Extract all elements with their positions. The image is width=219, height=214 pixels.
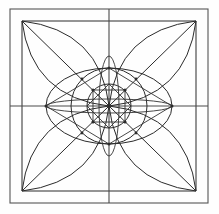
node-diag-bl-dot	[91, 120, 94, 123]
node-ring-tr-dot	[135, 78, 138, 81]
node-left-dot	[45, 105, 48, 108]
node-ring-bl-dot	[81, 132, 84, 135]
node-center-dot	[107, 104, 111, 108]
node-ring-tl-dot	[81, 78, 84, 81]
node-up-dot	[108, 67, 111, 70]
node-down-dot	[108, 143, 111, 146]
node-diag-tl-dot	[91, 88, 94, 91]
rosette-figure	[0, 0, 219, 214]
node-diag-tr-dot	[123, 88, 126, 91]
node-right-dot	[171, 105, 174, 108]
figure-canvas	[0, 0, 219, 214]
node-diag-br-dot	[123, 120, 126, 123]
node-ring-br-dot	[135, 132, 138, 135]
